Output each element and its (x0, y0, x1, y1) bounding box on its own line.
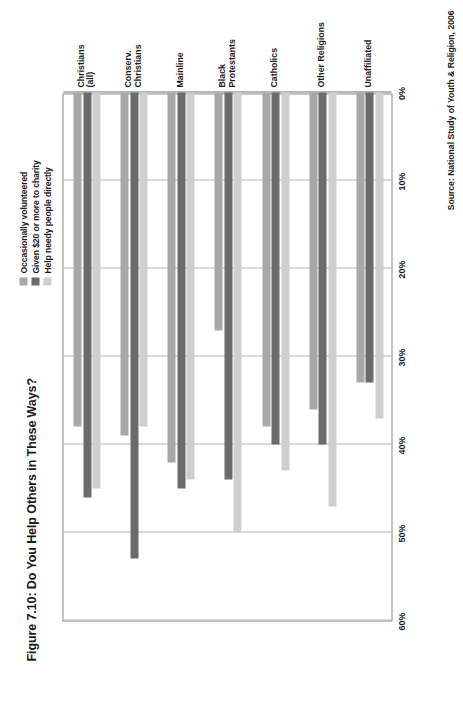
page-title: Figure 7.10: Do You Help Others in These… (24, 378, 38, 661)
tick-label: 20% (396, 260, 406, 278)
bar[interactable] (224, 92, 232, 479)
bar-group (204, 94, 251, 620)
bar[interactable] (318, 92, 326, 444)
bar[interactable] (130, 92, 138, 558)
category-label: Black Protestants (217, 39, 237, 87)
tick-label: 60% (396, 612, 406, 630)
plot-area (62, 93, 392, 621)
bar[interactable] (177, 92, 185, 488)
legend-item-label: Given $20 or more to charity (30, 160, 40, 273)
legend-item-label: Help needy people directly (42, 167, 52, 273)
source-note: Source: National Study of Youth & Religi… (445, 10, 455, 210)
tick-label: 40% (396, 436, 406, 454)
bar[interactable] (139, 92, 147, 426)
bar-group (110, 94, 157, 620)
tick-label: 30% (396, 348, 406, 366)
bar[interactable] (262, 92, 270, 426)
bar[interactable] (92, 92, 100, 488)
bar[interactable] (233, 92, 241, 532)
category-label: Unaffiliated (364, 39, 374, 87)
figure-root: Figure 7.10: Do You Help Others in These… (0, 0, 463, 717)
category-label: Other Religions (316, 22, 326, 88)
legend-swatch-volunteered (19, 277, 27, 285)
rotated-figure-canvas: Figure 7.10: Do You Help Others in These… (0, 0, 463, 717)
plot-inner (63, 94, 391, 620)
bar-group (299, 94, 346, 620)
tick-label: 10% (396, 172, 406, 190)
bar[interactable] (214, 92, 222, 330)
tick-label: 0% (396, 86, 406, 99)
bar-group (346, 94, 393, 620)
legend-item[interactable]: Occasionally volunteered (18, 160, 28, 285)
bar-group (157, 94, 204, 620)
bar[interactable] (83, 92, 91, 497)
category-label: Conserv. Christians (123, 44, 143, 87)
bar[interactable] (120, 92, 128, 435)
bar[interactable] (167, 92, 175, 462)
bar[interactable] (375, 92, 383, 418)
tick-label: 50% (396, 524, 406, 542)
category-label: Catholics (269, 47, 279, 87)
bar-group (252, 94, 299, 620)
bar[interactable] (309, 92, 317, 409)
legend-item[interactable]: Help needy people directly (42, 160, 52, 285)
bar[interactable] (281, 92, 289, 470)
bar-group (63, 94, 110, 620)
category-label: Christians (all) (76, 44, 96, 87)
legend-swatch-charity (31, 277, 39, 285)
bar[interactable] (186, 92, 194, 479)
bar[interactable] (365, 92, 373, 382)
legend-swatch-needy (43, 277, 51, 285)
category-label: Mainline (175, 52, 185, 87)
bar[interactable] (328, 92, 336, 506)
bar[interactable] (356, 92, 364, 382)
bar[interactable] (73, 92, 81, 426)
chart-legend: Occasionally volunteeredGiven $20 or mor… (18, 160, 52, 285)
bar[interactable] (271, 92, 279, 444)
legend-item[interactable]: Given $20 or more to charity (30, 160, 40, 285)
legend-item-label: Occasionally volunteered (18, 171, 28, 273)
